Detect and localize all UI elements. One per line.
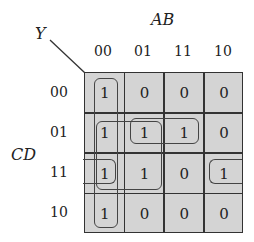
cell-cd00-ab01: 0 bbox=[125, 73, 165, 113]
col-header-01: 01 bbox=[134, 44, 152, 58]
group-loop-row01-pair bbox=[130, 118, 199, 144]
output-variable-label: Y bbox=[35, 26, 46, 42]
col-header-11: 11 bbox=[174, 44, 192, 58]
row-header-11: 11 bbox=[50, 165, 68, 179]
col-header-00: 00 bbox=[94, 44, 112, 58]
row-header-01: 01 bbox=[50, 125, 68, 139]
row-header-00: 00 bbox=[50, 85, 68, 99]
cell-cd11-ab11: 0 bbox=[165, 154, 205, 194]
group-loop-wrap-left bbox=[83, 159, 116, 184]
row-header-10: 10 bbox=[50, 205, 68, 219]
col-header-10: 10 bbox=[214, 44, 232, 58]
cell-cd10-ab11: 0 bbox=[165, 194, 205, 234]
cell-cd00-ab11: 0 bbox=[165, 73, 205, 113]
karnaugh-map-grid: 1 0 0 0 1 1 1 0 1 1 0 1 1 0 0 0 bbox=[84, 72, 243, 233]
cell-cd01-ab10: 0 bbox=[204, 113, 244, 153]
column-variable-label: AB bbox=[151, 12, 174, 28]
cell-cd10-ab10: 0 bbox=[204, 194, 244, 234]
cell-cd10-ab01: 0 bbox=[125, 194, 165, 234]
group-loop-wrap-right bbox=[209, 159, 242, 184]
row-variable-label: CD bbox=[11, 147, 36, 163]
cell-cd00-ab10: 0 bbox=[204, 73, 244, 113]
